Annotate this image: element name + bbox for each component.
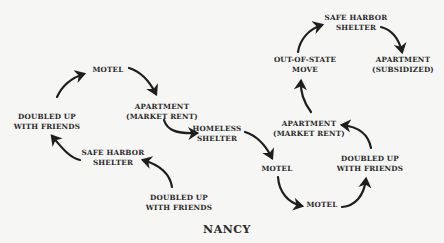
node-apartment-market-1: APARTMENT (MARKET RENT) xyxy=(126,102,198,121)
node-safe-harbor-2: SAFE HARBOR SHELTER xyxy=(325,13,388,32)
arrow-motel_3-to-doubled_up_3 xyxy=(342,179,366,207)
arrow-out_of_state-to-safe_harbor_2 xyxy=(298,25,322,52)
node-motel-2: MOTEL xyxy=(261,164,292,174)
arrow-homeless_shelter-to-motel_2 xyxy=(245,132,272,158)
arrow-motel_2-to-motel_3 xyxy=(278,177,302,206)
node-motel-3: MOTEL xyxy=(306,200,337,210)
arrow-motel_1-to-apartment_market_1 xyxy=(129,68,156,94)
node-motel-1: MOTEL xyxy=(92,65,123,75)
node-doubled-up-1: DOUBLED UP WITH FRIENDS xyxy=(14,112,80,131)
arrow-doubled_up_3-to-apartment_market_2 xyxy=(342,125,371,148)
node-safe-harbor-1: SAFE HARBOR SHELTER xyxy=(82,148,145,167)
housing-path-diagram: MOTEL DOUBLED UP WITH FRIENDS APARTMENT … xyxy=(0,0,444,243)
node-doubled-up-3: DOUBLED UP WITH FRIENDS xyxy=(337,154,403,173)
arrow-doubled_up_1-to-motel_1 xyxy=(57,74,84,97)
arrow-doubled_up_2-to-safe_harbor_1 xyxy=(143,160,172,187)
diagram-title: NANCY xyxy=(203,223,251,236)
arrow-safe_harbor_1-to-doubled_up_1 xyxy=(52,136,80,160)
node-homeless-shelter: HOMELESS SHELTER xyxy=(193,124,242,143)
node-out-of-state-move: OUT-OF-STATE MOVE xyxy=(274,55,336,74)
node-apartment-market-2: APARTMENT (MARKET RENT) xyxy=(273,119,345,138)
arrow-apartment_market_2-to-out_of_state xyxy=(301,81,311,112)
node-doubled-up-2: DOUBLED UP WITH FRIENDS xyxy=(146,193,212,212)
node-apartment-subsidized: APARTMENT (SUBSIDIZED) xyxy=(372,55,434,74)
